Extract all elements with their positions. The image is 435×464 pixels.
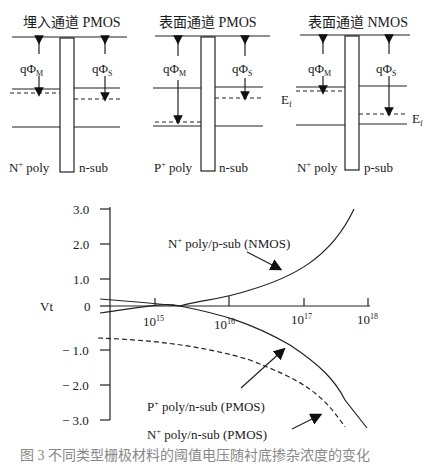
y-tick-label: − 2.0: [62, 379, 89, 392]
series-label-p-pmos: P+ poly/n-sub (PMOS): [147, 400, 265, 413]
figure-caption: 图 3 不同类型栅极材料的阈值电压随衬底掺杂浓度的变化: [20, 444, 370, 464]
series-label-nmos: N+ poly/p-sub (NMOS): [168, 237, 290, 250]
x-tick-label: 1016: [214, 318, 235, 331]
y-axis-label: Vt: [40, 300, 53, 313]
x-tick-label: 1015: [143, 315, 164, 328]
y-tick-label: 1.0: [73, 273, 89, 286]
x-tick-label: 1018: [357, 313, 378, 326]
y-tick-label: − 3.0: [62, 414, 89, 427]
y-tick-label: 0: [84, 300, 91, 313]
y-tick-label: 2.0: [73, 238, 89, 251]
y-tick-label: − 1.0: [62, 344, 89, 357]
x-tick-label: 1017: [291, 313, 312, 326]
series-label-n-pmos: N+ poly/n-sub (PMOS): [147, 428, 267, 441]
y-tick-label: 3.0: [73, 203, 89, 216]
